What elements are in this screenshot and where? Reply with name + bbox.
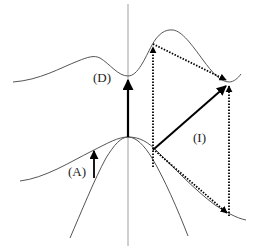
band-diagram-svg <box>0 0 256 248</box>
conduction-band-curve <box>13 30 241 82</box>
indirect-transition-arrow <box>154 86 226 149</box>
band-diagram: (D) (A) (I) <box>0 0 256 248</box>
heavy-valence-band-curve <box>70 137 188 238</box>
light-valence-band-curve <box>20 137 246 220</box>
dotted-diagonal-upper-arrow <box>153 44 226 80</box>
label-indirect: (I) <box>193 131 206 144</box>
label-auger: (A) <box>68 165 86 178</box>
label-direct: (D) <box>93 71 111 84</box>
